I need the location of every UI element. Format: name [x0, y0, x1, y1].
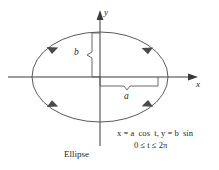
parameter-range-line: 0 ≤ t ≤ 2π [134, 141, 167, 150]
x-axis-label: x [196, 80, 200, 89]
y-axis-arrowhead [97, 10, 104, 20]
semi-major-brace [100, 77, 158, 90]
semi-major-axis-label: a [124, 92, 129, 102]
axes-group [8, 10, 198, 146]
semi-minor-brace [87, 33, 100, 77]
figure-canvas [0, 0, 219, 170]
ellipse-figure: y x b a x = a cos t, y = b sin 0 ≤ t ≤ 2… [0, 0, 219, 170]
direction-arrow-upper-left [47, 47, 59, 54]
figure-caption: Ellipse [64, 150, 89, 159]
y-axis-label: y [104, 8, 108, 17]
semi-minor-axis-label: b [74, 48, 79, 58]
direction-arrow-lower-right [142, 100, 153, 107]
direction-arrow-lower-left [47, 100, 58, 107]
parametric-equation-line-1: x = a cos t, y = b sin [117, 129, 193, 138]
direction-arrow-upper-right [142, 47, 153, 54]
